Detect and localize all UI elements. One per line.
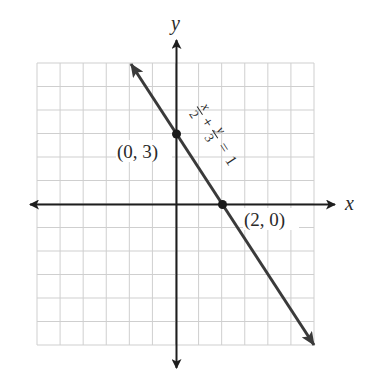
point-label-2-0: (2, 0) [244,209,285,231]
point-label-0-3: (0, 3) [117,141,158,163]
point-2-0 [218,200,227,209]
eq-3: 3 [202,131,218,145]
point-0-3 [172,130,181,139]
eq-2: 2 [186,107,202,121]
eq-1: 1 [222,152,241,168]
x-axis-label: x [344,192,354,214]
y-axis-label: y [169,12,180,35]
eq-equals: = [215,139,234,156]
eq-plus: + [198,114,217,131]
coordinate-plane: x y (0, 3) (2, 0) x 2 + y 3 = 1 [0,0,371,382]
